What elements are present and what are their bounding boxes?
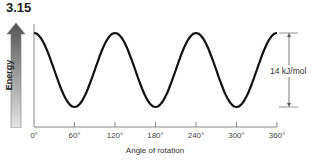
x-tick-label: 240° bbox=[181, 131, 211, 140]
x-axis-label: Angle of rotation bbox=[100, 146, 210, 155]
x-tick-label: 300° bbox=[222, 131, 252, 140]
energy-curve bbox=[34, 33, 277, 107]
x-tick-label: 120° bbox=[100, 131, 130, 140]
barrier-annotation: 14 kJ/mol bbox=[270, 65, 306, 77]
x-tick-label: 0° bbox=[19, 131, 49, 140]
x-tick-label: 360° bbox=[262, 131, 292, 140]
x-tick-label: 180° bbox=[141, 131, 171, 140]
x-tick-label: 60° bbox=[60, 131, 90, 140]
x-ticks bbox=[75, 122, 278, 127]
